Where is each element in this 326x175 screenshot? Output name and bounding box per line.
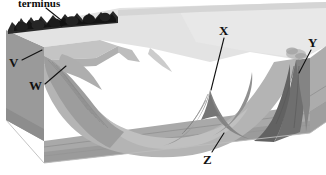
glacial-block-diagram — [0, 0, 326, 175]
moraine-lump-5 — [83, 15, 95, 24]
label-w: W — [29, 79, 42, 92]
label-v: V — [9, 56, 18, 69]
moraine-lump-6 — [100, 13, 111, 21]
figure-canvas: terminus V W X Y Z — [0, 0, 326, 175]
horn-peak-x-shadow — [201, 90, 220, 120]
label-x: X — [219, 24, 228, 37]
moraine-lump-2 — [32, 20, 45, 30]
label-z: Z — [203, 153, 212, 166]
moraine-lump-1 — [16, 22, 28, 32]
moraine-lump-3 — [49, 18, 61, 27]
arete-ridge — [118, 46, 140, 62]
label-terminus: terminus — [18, 0, 60, 9]
moraine-lump-4 — [66, 16, 79, 26]
label-y: Y — [308, 36, 317, 49]
